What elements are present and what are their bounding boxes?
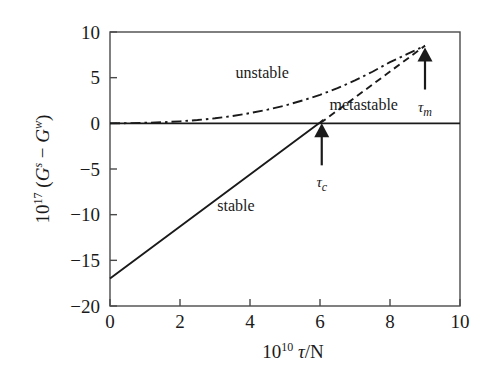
x-tick-label-0: 0 — [105, 311, 115, 332]
y-axis-title: 1017 (Gs − Gw) — [31, 115, 54, 224]
y-tick-label--10: −10 — [70, 204, 100, 225]
x-axis-title: 1010 τ/N — [262, 340, 324, 362]
chart-figure: 0246810 1050−5−10−15−20 stablemetastable… — [0, 0, 494, 381]
y-axis-title-group: 1017 (Gs − Gw) — [31, 115, 54, 224]
x-tick-label-6: 6 — [315, 311, 325, 332]
x-tick-label-10: 10 — [451, 311, 470, 332]
x-tick-label-2: 2 — [175, 311, 185, 332]
x-tick-label-8: 8 — [385, 311, 395, 332]
x-tick-label-4: 4 — [245, 311, 255, 332]
y-tick-label-10: 10 — [81, 22, 100, 43]
series-label-metastable: metastable — [330, 96, 398, 113]
y-tick-label-5: 5 — [91, 67, 101, 88]
y-tick-label-0: 0 — [91, 113, 101, 134]
y-tick-label--5: −5 — [80, 159, 100, 180]
y-tick-label--20: −20 — [70, 296, 100, 317]
series-label-stable: stable — [217, 197, 254, 214]
y-tick-label--15: −15 — [70, 250, 100, 271]
free-energy-vs-tau-plot: 0246810 1050−5−10−15−20 stablemetastable… — [0, 0, 494, 381]
series-label-unstable: unstable — [236, 64, 289, 81]
